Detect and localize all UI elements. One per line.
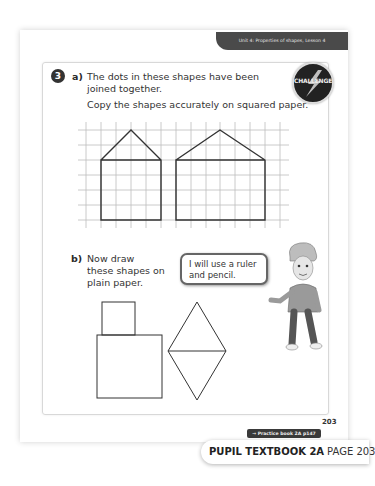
practice-book-link[interactable]: → Practice book 2A p147 bbox=[247, 429, 321, 438]
part-b-text-line1: Now draw bbox=[87, 253, 134, 265]
textbook-page-label: PUPIL TEXTBOOK 2APAGE 203 bbox=[201, 440, 369, 464]
speech-line-1: I will use a ruler bbox=[189, 259, 259, 270]
book-title: PUPIL TEXTBOOK 2A bbox=[209, 446, 324, 457]
page-number: 203 bbox=[322, 418, 337, 426]
part-b-text-line2: these shapes on bbox=[87, 265, 165, 277]
part-b-text-line3: plain paper. bbox=[87, 277, 143, 289]
large-square-shape bbox=[97, 335, 162, 398]
small-square-shape bbox=[102, 302, 135, 335]
speech-bubble: I will use a ruler and pencil. bbox=[180, 253, 268, 285]
speech-line-2: and pencil. bbox=[189, 270, 259, 281]
book-page: PAGE 203 bbox=[327, 446, 375, 457]
grid-lines bbox=[78, 122, 289, 228]
boy-character-illustration bbox=[271, 243, 322, 350]
part-b-label: b) bbox=[71, 253, 82, 264]
